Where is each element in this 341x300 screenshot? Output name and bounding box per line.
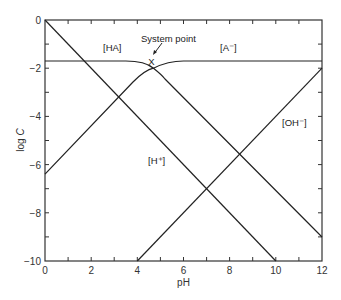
log-concentration-diagram: 0 2 4 6 8 10 12 pH 0 −2 −4 −6 −8 −10 log… xyxy=(0,0,341,300)
x-tick-6: 6 xyxy=(181,265,187,276)
x-tick-8: 8 xyxy=(227,265,233,276)
y-tick-minus2: −2 xyxy=(30,63,42,74)
x-axis-ticks xyxy=(68,20,299,261)
x-tick-2: 2 xyxy=(88,265,94,276)
y-tick-minus4: −4 xyxy=(30,111,42,122)
y-tick-0: 0 xyxy=(35,15,41,26)
y-tick-minus8: −8 xyxy=(30,208,42,219)
y-tick-minus10: −10 xyxy=(24,256,41,267)
x-tick-4: 4 xyxy=(135,265,141,276)
h-plus-line xyxy=(45,20,276,261)
x-tick-10: 10 xyxy=(270,265,282,276)
oh-minus-label: [OH⁻] xyxy=(282,117,307,128)
ha-label: [HA] xyxy=(103,42,121,53)
system-point-marker: X xyxy=(148,56,155,67)
system-point-label: System point xyxy=(141,33,196,44)
h-plus-label: [H⁺] xyxy=(148,155,165,166)
plot-frame xyxy=(45,20,322,261)
x-axis-label: pH xyxy=(177,277,190,288)
a-minus-curve xyxy=(45,61,322,174)
y-axis-label: log C xyxy=(15,128,26,152)
a-minus-label: [A⁻] xyxy=(220,42,237,53)
ha-curve xyxy=(45,61,322,237)
y-axis-ticks xyxy=(45,44,322,237)
y-tick-minus6: −6 xyxy=(30,160,42,171)
x-tick-0: 0 xyxy=(42,265,48,276)
x-tick-12: 12 xyxy=(316,265,328,276)
